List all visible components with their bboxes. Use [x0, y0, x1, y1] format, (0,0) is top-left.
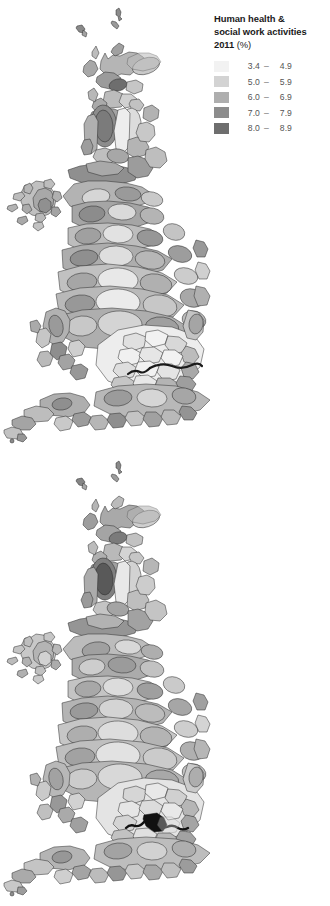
uk-cartogram-change-map [0, 453, 215, 906]
legend-range-label: 6.0–6.9 [241, 92, 292, 102]
legend-range-label: 5.0–5.9 [241, 77, 292, 87]
legend-2011-levels: Human health & social work activities 20… [214, 12, 330, 136]
cartogram-figure: Human health & social work activities 20… [0, 0, 330, 906]
legend-class-list-2011: 3.4–4.95.0–5.96.0–6.97.0–7.98.0–8.9 [214, 59, 330, 137]
legend-range-high: 8.9 [273, 123, 292, 133]
legend-title-line2: social work activities [214, 26, 307, 37]
panel-2011-levels: Human health & social work activities 20… [0, 0, 330, 453]
legend-title-2011: Human health & social work activities 20… [214, 12, 330, 52]
legend-title-line1: Human health & [214, 13, 285, 24]
legend-range-label: 7.0–7.9 [241, 108, 292, 118]
legend-title-line3: 2011 [214, 39, 234, 50]
legend-swatch [214, 92, 229, 103]
legend-range-high: 7.9 [273, 108, 292, 118]
legend-row: 6.0–6.9 [214, 90, 330, 106]
legend-range-dash: – [260, 77, 273, 87]
uk-cartogram-change-svg [0, 453, 215, 906]
legend-range-dash: – [260, 92, 273, 102]
legend-range-dash: – [260, 61, 273, 71]
legend-range-low: 6.0 [241, 92, 260, 102]
uk-cartogram-2011-map [0, 0, 215, 453]
legend-swatch [214, 76, 229, 87]
legend-range-high: 4.9 [273, 61, 292, 71]
legend-row: 5.0–5.9 [214, 74, 330, 90]
legend-range-low: 8.0 [241, 123, 260, 133]
legend-row: 3.4–4.9 [214, 59, 330, 75]
legend-range-high: 6.9 [273, 92, 292, 102]
legend-row: 7.0–7.9 [214, 105, 330, 121]
legend-range-low: 7.0 [241, 108, 260, 118]
legend-range-label: 8.0–8.9 [241, 123, 292, 133]
legend-title-unit: (%) [237, 39, 251, 50]
panel-change: Human health & social work activities ch… [0, 453, 330, 906]
legend-swatch [214, 61, 229, 72]
uk-cartogram-2011-svg [0, 0, 215, 453]
legend-swatch [214, 123, 229, 134]
legend-range-label: 3.4–4.9 [241, 61, 292, 71]
legend-range-low: 5.0 [241, 77, 260, 87]
legend-swatch [214, 107, 229, 118]
legend-range-low: 3.4 [241, 61, 260, 71]
legend-range-dash: – [260, 123, 273, 133]
legend-row: 8.0–8.9 [214, 121, 330, 137]
legend-range-dash: – [260, 108, 273, 118]
legend-range-high: 5.9 [273, 77, 292, 87]
